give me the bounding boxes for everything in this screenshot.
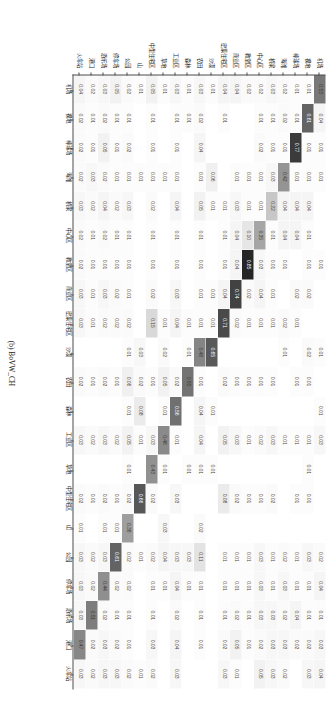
matrix-cell: 0.01	[157, 74, 169, 103]
matrix-cell	[241, 454, 253, 483]
matrix-cell: 0.01	[217, 220, 229, 249]
matrix-cell	[109, 454, 121, 483]
matrix-cell: 0.02	[85, 659, 97, 688]
matrix-cell: 0.02	[157, 337, 169, 366]
matrix-cell: 0.01	[109, 103, 121, 132]
matrix-cell: 0.01	[241, 366, 253, 395]
matrix-cell: 0.01	[121, 629, 133, 658]
matrix-cell: 0.56	[169, 396, 181, 425]
matrix-cell: 0.03	[73, 600, 85, 629]
matrix-row: 0.020.010.010.100.850.020.010.010.010.01…	[241, 74, 253, 688]
matrix-cell: 0.01	[313, 132, 325, 161]
matrix-cell: 0.01	[157, 396, 169, 425]
matrix-cell	[205, 249, 217, 278]
matrix-cell: 0.01	[145, 220, 157, 249]
matrix-cell: 0.01	[241, 542, 253, 571]
matrix-cell	[217, 132, 229, 161]
matrix-cell: 0.03	[157, 513, 169, 542]
matrix-cell	[277, 454, 289, 483]
matrix-cell: 0.02	[313, 542, 325, 571]
matrix-cell	[181, 513, 193, 542]
matrix-cell: 0.04	[73, 74, 85, 103]
matrix-cell	[265, 513, 277, 542]
matrix-row: 0.040.010.030.040.040.740.020.010.030.02…	[229, 74, 241, 688]
matrix-cell: 0.01	[181, 103, 193, 132]
matrix-cell: 0.01	[181, 308, 193, 337]
matrix-cell	[241, 396, 253, 425]
matrix-cell: 0.05	[193, 191, 205, 220]
matrix-cell: 0.03	[217, 659, 229, 688]
matrix-cell: 0.01	[253, 483, 265, 512]
matrix-cell: 0.02	[229, 483, 241, 512]
matrix-cell: 0.01	[265, 366, 277, 395]
matrix-cell: 0.48	[193, 337, 205, 366]
matrix-cell: 0.06	[205, 162, 217, 191]
matrix-cell: 0.01	[145, 249, 157, 278]
y-tick-label: 草地	[157, 57, 169, 67]
matrix-cell: 0.03	[145, 629, 157, 658]
matrix-cell: 0.01	[217, 600, 229, 629]
matrix-cell	[205, 220, 217, 249]
matrix-row: 0.020.020.010.420.040.040.010.020.010.01…	[277, 74, 289, 688]
matrix-cell: 0.02	[229, 600, 241, 629]
matrix-cell: 0.02	[97, 600, 109, 629]
matrix-cell: 0.04	[169, 629, 181, 658]
matrix-cell: 0.01	[301, 220, 313, 249]
matrix-cell	[313, 191, 325, 220]
matrix-row: 0.030.020.040.010.050.010.010.010.010.48…	[193, 74, 205, 688]
matrix-cell: 0.02	[121, 132, 133, 161]
matrix-cell: 0.01	[289, 74, 301, 103]
matrix-cell	[133, 600, 145, 629]
matrix-cell	[229, 454, 241, 483]
matrix-row: 0.010.010.010.010.550.010.030.01	[181, 74, 193, 688]
matrix-cell: 0.03	[313, 629, 325, 658]
matrix-cell	[253, 337, 265, 366]
matrix-cell	[133, 513, 145, 542]
matrix-cell	[181, 483, 193, 512]
matrix-cell	[217, 396, 229, 425]
matrix-cell: 0.01	[121, 600, 133, 629]
matrix-cell	[133, 191, 145, 220]
matrix-cell: 0.03	[97, 74, 109, 103]
matrix-cell: 0.02	[217, 629, 229, 658]
matrix-cell	[241, 337, 253, 366]
matrix-cell	[205, 629, 217, 658]
matrix-cell: 0.01	[265, 132, 277, 161]
matrix-cell	[133, 629, 145, 658]
y-tick-label: 海滩	[277, 57, 289, 67]
matrix-cell: 0.02	[193, 513, 205, 542]
matrix-cell	[181, 191, 193, 220]
matrix-cell: 0.38	[121, 513, 133, 542]
matrix-cell: 0.02	[169, 600, 181, 629]
matrix-cell: 0.02	[121, 659, 133, 688]
matrix-cell	[145, 513, 157, 542]
matrix-cell	[109, 396, 121, 425]
matrix-cell: 0.01	[109, 366, 121, 395]
matrix-cell	[133, 454, 145, 483]
matrix-cell: 0.02	[301, 279, 313, 308]
matrix-cell: 0.01	[193, 629, 205, 658]
matrix-cell: 0.01	[229, 366, 241, 395]
matrix-cell: 0.01	[205, 454, 217, 483]
matrix-cell: 0.03	[253, 600, 265, 629]
matrix-cell: 0.01	[217, 191, 229, 220]
matrix-cell	[241, 103, 253, 132]
matrix-cell: 0.01	[193, 600, 205, 629]
matrix-cell: 0.01	[301, 162, 313, 191]
matrix-cell: 0.01	[289, 542, 301, 571]
y-tick-label: 中心区	[253, 52, 265, 67]
matrix-cell: 0.01	[109, 162, 121, 191]
matrix-cell	[313, 220, 325, 249]
y-tick-label: 森林	[181, 57, 193, 67]
matrix-cell: 0.03	[265, 629, 277, 658]
matrix-cell: 0.04	[157, 542, 169, 571]
matrix-cell	[181, 249, 193, 278]
y-tick-label: 棒球场	[289, 52, 301, 67]
matrix-cell	[157, 220, 169, 249]
matrix-cell: 0.02	[121, 542, 133, 571]
matrix-cell: 0.01	[205, 191, 217, 220]
matrix-cell: 0.01	[157, 162, 169, 191]
matrix-cell: 0.01	[265, 103, 277, 132]
matrix-cell: 0.05	[97, 132, 109, 161]
matrix-cell	[289, 396, 301, 425]
